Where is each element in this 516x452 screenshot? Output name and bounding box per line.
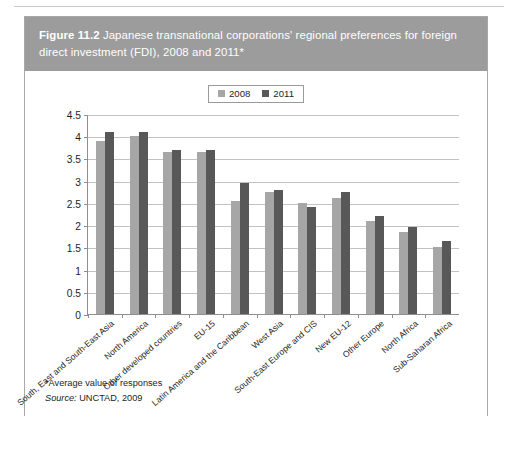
bar-2008[interactable] <box>130 136 139 314</box>
bar-group <box>88 115 122 314</box>
figure-page: Figure 11.2 Japanese transnational corpo… <box>0 0 516 452</box>
bar-2008[interactable] <box>399 232 408 314</box>
bar-2008[interactable] <box>332 198 341 314</box>
bar-2011[interactable] <box>206 150 215 314</box>
chart-area: 20082011 4.543.532.521.510.50 South, Eas… <box>25 71 487 420</box>
plot-region: 4.543.532.521.510.50 <box>87 115 459 315</box>
x-axis-tick <box>155 314 156 318</box>
page-top-rule <box>14 6 504 7</box>
y-axis-tick-label: 4 <box>75 132 81 143</box>
bar-2011[interactable] <box>442 241 451 314</box>
x-axis-tick <box>392 314 393 318</box>
bar-2008[interactable] <box>366 221 375 314</box>
bar-groups <box>88 115 459 314</box>
legend-label: 2008 <box>229 88 250 99</box>
x-axis-tick <box>223 314 224 318</box>
y-axis-tick-label: 1 <box>75 265 81 276</box>
bar-group <box>290 115 324 314</box>
bar-group <box>155 115 189 314</box>
bar-2008[interactable] <box>96 141 105 314</box>
figure-caption-text: Japanese transnational corporations' reg… <box>39 29 457 58</box>
bar-group <box>223 115 257 314</box>
bar-2011[interactable] <box>307 207 316 314</box>
y-axis-tick-label: 2 <box>75 221 81 232</box>
bar-2008[interactable] <box>197 152 206 314</box>
bar-group <box>257 115 291 314</box>
bar-2008[interactable] <box>231 201 240 314</box>
bar-group <box>392 115 426 314</box>
legend-label: 2011 <box>273 88 294 99</box>
bar-2008[interactable] <box>163 152 172 314</box>
x-axis-tick <box>257 314 258 318</box>
bar-group <box>122 115 156 314</box>
source-text: UNCTAD, 2009 <box>77 393 143 403</box>
bar-group <box>358 115 392 314</box>
legend-item-2008[interactable]: 2008 <box>218 88 250 99</box>
y-axis-tick-label: 3 <box>75 176 81 187</box>
bar-group <box>425 115 459 314</box>
legend-swatch-icon <box>218 90 225 97</box>
y-axis-tick-label: 0 <box>75 310 81 321</box>
bar-2011[interactable] <box>139 132 148 314</box>
figure-source: Source: UNCTAD, 2009 <box>45 391 162 406</box>
plot-wrapper: 4.543.532.521.510.50 <box>87 115 459 315</box>
bar-group <box>189 115 223 314</box>
figure-caption-bar: Figure 11.2 Japanese transnational corpo… <box>25 17 487 71</box>
legend-item-2011[interactable]: 2011 <box>262 88 294 99</box>
x-axis-tick <box>425 314 426 318</box>
figure-notes: *Average value of responses Source: UNCT… <box>45 376 162 406</box>
figure-container: Figure 11.2 Japanese transnational corpo… <box>24 16 488 416</box>
bar-2011[interactable] <box>408 227 417 314</box>
x-axis-tick <box>189 314 190 318</box>
x-axis-tick <box>88 314 89 318</box>
bar-2011[interactable] <box>105 132 114 314</box>
bar-2011[interactable] <box>341 192 350 314</box>
bar-2008[interactable] <box>298 203 307 314</box>
legend-swatch-icon <box>262 90 269 97</box>
x-axis-tick <box>324 314 325 318</box>
source-prefix: Source: <box>45 393 77 403</box>
chart-legend: 20082011 <box>25 85 487 103</box>
figure-caption: Figure 11.2 Japanese transnational corpo… <box>39 27 473 60</box>
y-axis-tick-label: 3.5 <box>67 154 81 165</box>
bar-group <box>324 115 358 314</box>
y-axis-tick-label: 2.5 <box>67 198 81 209</box>
figure-number: Figure 11.2 <box>39 29 100 41</box>
bar-2008[interactable] <box>433 247 442 314</box>
x-axis-tick <box>122 314 123 318</box>
bar-2011[interactable] <box>274 190 283 314</box>
x-axis-tick <box>358 314 359 318</box>
y-axis-tick-label: 0.5 <box>67 287 81 298</box>
x-axis-tick <box>290 314 291 318</box>
y-axis-tick-label: 4.5 <box>67 110 81 121</box>
figure-footnote: *Average value of responses <box>45 376 162 391</box>
bar-2011[interactable] <box>240 183 249 314</box>
bar-2011[interactable] <box>172 150 181 314</box>
legend-box: 20082011 <box>208 85 304 103</box>
bar-2011[interactable] <box>375 216 384 314</box>
x-axis-label: EU-15 <box>193 319 217 342</box>
y-axis-tick-label: 1.5 <box>67 243 81 254</box>
bar-2008[interactable] <box>265 192 274 314</box>
